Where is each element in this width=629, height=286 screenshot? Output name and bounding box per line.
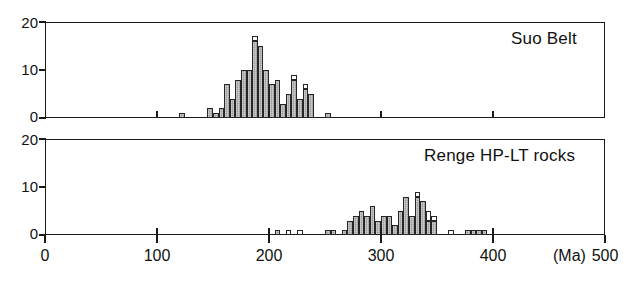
xtick-mark [380, 111, 382, 118]
xtick-mark [492, 111, 494, 118]
x-axis-unit: (Ma) [553, 247, 586, 265]
xtick-mark [156, 228, 158, 235]
histogram-bar-open [286, 230, 292, 235]
ytick-mark-top-10 [39, 69, 46, 71]
histogram-bar-open [448, 230, 454, 235]
xtick-mark-axis [380, 235, 382, 243]
histogram-bar [179, 113, 185, 118]
histogram-bar [431, 221, 437, 235]
xtick-mark-axis [492, 235, 494, 243]
histogram-bar-open [415, 192, 421, 197]
ytick-label-top-20: 20 [8, 14, 38, 31]
xtick-label: 200 [244, 247, 294, 265]
xtick-mark [268, 228, 270, 235]
xtick-label: 300 [356, 247, 406, 265]
xtick-mark-axis [44, 235, 46, 243]
xtick-label: 0 [20, 247, 70, 265]
histogram-bar-open [303, 84, 309, 89]
histogram-bar [325, 113, 331, 118]
ytick-mark-top-20 [39, 21, 46, 23]
histogram-figure: 20 10 0 Suo Belt 20 10 0 Renge HP-LT roc… [0, 0, 629, 286]
xtick-mark [156, 111, 158, 118]
xtick-mark [268, 111, 270, 118]
histogram-bar-open [252, 36, 258, 41]
xtick-mark [492, 228, 494, 235]
xtick-mark [380, 228, 382, 235]
xtick-label: 500 [580, 247, 629, 265]
histogram-bar-open [297, 230, 303, 235]
ytick-label-bottom-20: 20 [8, 131, 38, 148]
panel-title-suo-belt: Suo Belt [511, 29, 577, 49]
histogram-bar [275, 230, 281, 235]
ytick-label-top-10: 10 [8, 61, 38, 78]
xtick-mark-axis [268, 235, 270, 243]
histogram-bar [331, 230, 337, 235]
xtick-mark-axis [156, 235, 158, 243]
panel-title-renge-hp-lt: Renge HP-LT rocks [424, 146, 575, 166]
ytick-label-top-0: 0 [8, 108, 38, 125]
xtick-label: 100 [132, 247, 182, 265]
xtick-label: 400 [468, 247, 518, 265]
histogram-bar-open [291, 75, 297, 80]
ytick-label-bottom-10: 10 [8, 178, 38, 195]
ytick-label-bottom-0: 0 [8, 225, 38, 242]
ytick-mark-bottom-10 [39, 186, 46, 188]
ytick-mark-top-0 [39, 117, 46, 119]
ytick-mark-bottom-20 [39, 138, 46, 140]
histogram-bar [482, 230, 488, 235]
histogram-bar [308, 94, 314, 118]
histogram-bar-open [431, 216, 437, 221]
xtick-mark-axis [604, 235, 606, 243]
